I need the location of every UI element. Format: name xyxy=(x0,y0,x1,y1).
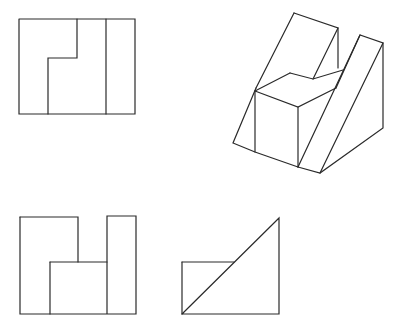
front-view xyxy=(20,216,136,314)
top-view-edge xyxy=(48,19,77,114)
isometric-view-edge xyxy=(298,35,383,173)
top-view xyxy=(19,19,135,114)
isometric-view-edge xyxy=(233,88,298,167)
isometric-view-edge xyxy=(255,73,290,91)
front-view-edge xyxy=(20,217,78,262)
isometric-view-edge xyxy=(256,13,294,88)
side-view xyxy=(182,218,279,314)
side-view-edge xyxy=(182,218,279,314)
isometric-view xyxy=(233,13,383,173)
isometric-view-edge xyxy=(320,43,383,173)
isometric-view-edge xyxy=(255,88,336,107)
isometric-view-edge xyxy=(298,35,360,167)
isometric-view-edge xyxy=(313,28,338,79)
technical-drawing xyxy=(0,0,400,333)
